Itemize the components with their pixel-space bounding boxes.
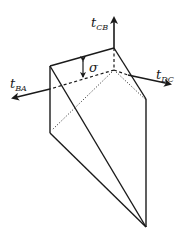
label-t-dc: tDC [156, 66, 174, 84]
wedge-diagram [0, 0, 179, 239]
label-t-cb: tCB [91, 14, 108, 32]
label-sigma: σ [89, 59, 98, 75]
hidden-dotted-edges [52, 70, 146, 130]
label-t-ba: tBA [10, 75, 27, 93]
